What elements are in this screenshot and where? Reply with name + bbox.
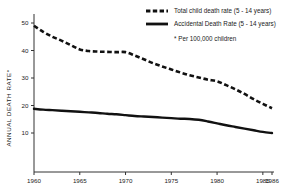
chart-ticks: 10203040501960196519701975198019851986 <box>22 19 280 183</box>
legend-item-accidental-death-rate: Accidental Death Rate (5 - 14 years) <box>146 20 276 28</box>
x-tick-label: 1986 <box>265 177 279 184</box>
line-chart: Total child death rate (5 - 14 years) Ac… <box>0 0 290 193</box>
y-tick-label: 10 <box>22 129 29 136</box>
y-tick-label: 40 <box>22 47 29 54</box>
axis-lines <box>34 14 274 172</box>
y-axis-title: ANNUAL DEATH RATE* <box>5 69 12 146</box>
x-tick-label: 1965 <box>73 177 87 184</box>
x-tick-label: 1970 <box>119 177 133 184</box>
y-tick-label: 30 <box>22 74 29 81</box>
y-tick-label: 20 <box>22 102 29 109</box>
x-tick-label: 1960 <box>27 177 41 184</box>
legend-label-total-child-death-rate: Total child death rate (5 - 14 years) <box>174 7 271 15</box>
chart-axes <box>34 14 274 172</box>
chart-container: Total child death rate (5 - 14 years) Ac… <box>0 0 290 193</box>
legend-label-accidental-death-rate: Accidental Death Rate (5 - 14 years) <box>174 20 276 28</box>
chart-series <box>34 26 272 133</box>
x-tick-label: 1975 <box>164 177 178 184</box>
chart-footnote: * Per 100,000 children <box>174 35 237 42</box>
x-tick-label: 1980 <box>210 177 224 184</box>
chart-legend: Total child death rate (5 - 14 years) Ac… <box>146 7 276 42</box>
series-line-accidental-death-rate <box>34 109 272 133</box>
y-tick-label: 50 <box>22 19 29 26</box>
legend-item-total-child-death-rate: Total child death rate (5 - 14 years) <box>146 7 271 15</box>
